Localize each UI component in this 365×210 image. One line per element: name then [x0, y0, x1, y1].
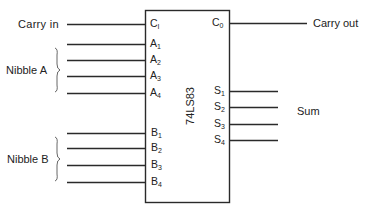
- pin-letter: C: [212, 16, 220, 28]
- pin-letter: A: [150, 86, 157, 98]
- pin-a2: A2: [150, 54, 161, 68]
- pin-subscript: 3: [221, 123, 225, 130]
- pin-subscript: 4: [157, 92, 161, 99]
- pin-subscript: 2: [158, 147, 162, 154]
- pin-letter: B: [151, 175, 158, 187]
- pin-s3: S3: [214, 118, 225, 132]
- sum-label: Sum: [297, 105, 320, 117]
- pin-letter: C: [150, 17, 158, 29]
- pin-subscript: 3: [158, 164, 162, 171]
- pin-letter: B: [151, 158, 158, 170]
- pin-letter: B: [151, 126, 158, 138]
- nibble-b-brace-icon: [55, 137, 60, 181]
- pin-b2: B2: [151, 142, 162, 156]
- nibble-b-label: Nibble B: [7, 153, 49, 165]
- pin-subscript: 2: [221, 106, 225, 113]
- pin-carry-out: C0: [212, 17, 224, 31]
- pin-subscript: 4: [158, 181, 162, 188]
- pin-letter: A: [150, 69, 157, 81]
- pin-letter: S: [214, 133, 221, 145]
- pin-subscript: 1: [221, 90, 225, 97]
- pin-s2: S2: [214, 101, 225, 115]
- pin-subscript: 3: [157, 75, 161, 82]
- pin-subscript: 2: [157, 59, 161, 66]
- pin-a4: A4: [150, 87, 161, 101]
- pin-letter: B: [151, 141, 158, 153]
- pin-a3: A3: [150, 70, 161, 84]
- pin-subscript: 1: [157, 43, 161, 50]
- nibble-a-label: Nibble A: [6, 64, 47, 76]
- pin-letter: S: [214, 100, 221, 112]
- pin-carry-in: CI: [150, 18, 160, 32]
- chip-label: 74LS83: [184, 84, 196, 128]
- pin-letter: S: [214, 84, 221, 96]
- carry-out-label: Carry out: [313, 17, 358, 29]
- pin-subscript: I: [158, 23, 160, 30]
- pin-letter: A: [150, 37, 157, 49]
- nibble-a-brace-icon: [55, 48, 60, 92]
- pin-s1: S1: [214, 85, 225, 99]
- pin-subscript: 0: [220, 22, 224, 29]
- pin-b4: B4: [151, 176, 162, 190]
- pin-b3: B3: [151, 159, 162, 173]
- carry-in-label: Carry in: [18, 18, 59, 30]
- pin-s4: S4: [214, 134, 225, 148]
- pin-letter: A: [150, 53, 157, 65]
- pin-subscript: 1: [158, 132, 162, 139]
- pin-subscript: 4: [221, 139, 225, 146]
- pin-b1: B1: [151, 127, 162, 141]
- pin-letter: S: [214, 117, 221, 129]
- pin-a1: A1: [150, 38, 161, 52]
